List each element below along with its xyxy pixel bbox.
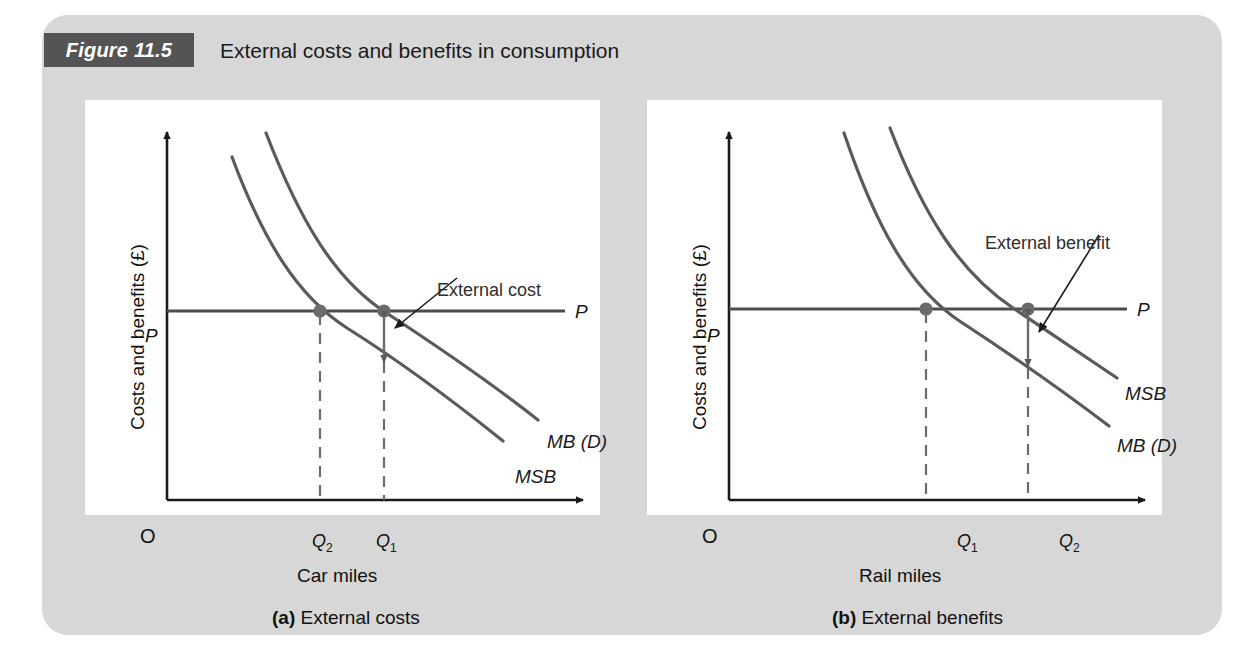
panel-caption-text-a: External costs: [301, 607, 420, 628]
origin-label-a: O: [140, 525, 156, 548]
figure-number-badge: Figure 11.5: [44, 33, 194, 67]
equilibrium-dot-q2-b: [1021, 302, 1034, 315]
curve-label-msb-a: MSB: [515, 466, 557, 487]
figure-number-label: Figure 11.5: [66, 39, 172, 62]
panel-caption-a: (a) External costs: [272, 607, 420, 629]
x-axis-title-a: Car miles: [297, 565, 377, 587]
chart-panel-a: MB (D) MSB P: [85, 100, 600, 515]
annotation-external-cost: External cost: [437, 280, 541, 301]
curve-mb-d-a: [266, 133, 538, 420]
curve-label-mb-d-a: MB (D): [547, 431, 607, 452]
x-axis-title-b: Rail miles: [859, 565, 941, 587]
x-tick-base-a-1: Q: [376, 531, 390, 551]
x-tick-label-q1-a: Q1: [376, 531, 397, 555]
chart-svg-a: MB (D) MSB P: [85, 100, 600, 515]
curve-label-mb-d-b: MB (D): [1117, 435, 1177, 456]
figure-title: External costs and benefits in consumpti…: [220, 37, 619, 65]
panel-caption-prefix-b: (b): [832, 607, 856, 628]
equilibrium-dot-q1-a: [377, 304, 390, 317]
price-label-left-a: P: [145, 325, 158, 347]
origin-label-b: O: [702, 525, 718, 548]
price-label-left-b: P: [707, 325, 720, 347]
price-label-right-a: P: [575, 301, 588, 322]
x-tick-base-a-0: Q: [312, 531, 326, 551]
x-tick-label-q1-b: Q1: [957, 531, 978, 555]
price-label-right-b: P: [1137, 299, 1150, 320]
panel-caption-text-b: External benefits: [862, 607, 1004, 628]
x-tick-base-b-1: Q: [1059, 531, 1073, 551]
x-tick-label-q2-b: Q2: [1059, 531, 1080, 555]
x-tick-label-q2-a: Q2: [312, 531, 333, 555]
x-tick-sub-b-1: 2: [1073, 541, 1080, 555]
chart-panel-b: MSB MB (D) P: [647, 100, 1162, 515]
annotation-external-benefit: External benefit: [985, 233, 1110, 254]
x-tick-base-b-0: Q: [957, 531, 971, 551]
x-tick-sub-a-0: 2: [326, 541, 333, 555]
figure-card: Figure 11.5 External costs and benefits …: [42, 15, 1222, 635]
panel-caption-b: (b) External benefits: [832, 607, 1003, 629]
chart-svg-b: MSB MB (D) P: [647, 100, 1162, 515]
panel-caption-prefix-a: (a): [272, 607, 295, 628]
x-tick-sub-b-0: 1: [971, 541, 978, 555]
x-tick-sub-a-1: 1: [390, 541, 397, 555]
curve-label-msb-b: MSB: [1125, 383, 1167, 404]
